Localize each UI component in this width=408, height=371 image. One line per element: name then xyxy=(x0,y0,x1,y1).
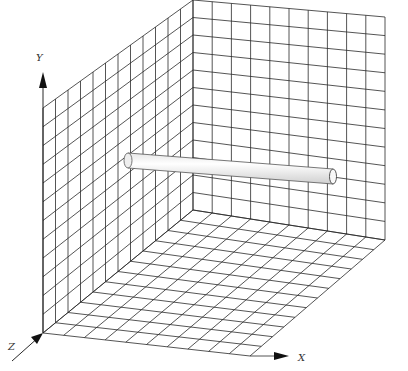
z-axis-label: Z xyxy=(7,341,16,352)
x-axis-arrow-icon xyxy=(274,352,289,360)
diagram-canvas: Y Z X xyxy=(0,0,408,371)
floor-grid xyxy=(43,210,385,356)
y-axis-arrow-icon xyxy=(39,72,47,88)
back-wall-grid xyxy=(193,0,385,240)
x-axis-label: X xyxy=(297,352,306,363)
z-axis: Z xyxy=(7,333,43,361)
y-axis-label: Y xyxy=(36,52,44,63)
y-axis: Y xyxy=(36,52,47,333)
x-axis: X xyxy=(274,352,306,363)
